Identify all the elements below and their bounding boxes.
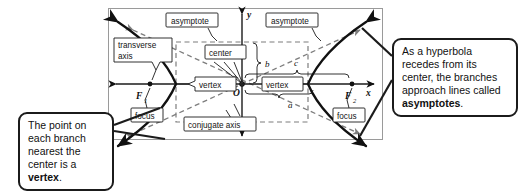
callout-left: The point on each branch nearest the cen…: [18, 112, 114, 191]
b-label: b: [265, 59, 270, 69]
callout-left-emphasis: vertex: [28, 171, 59, 183]
svg-text:F: F: [135, 91, 143, 101]
tag-asymptote-left-label: asymptote: [171, 17, 209, 26]
callout-right-text-after: .: [460, 97, 463, 109]
tag-transverse-axis-label-line2: axis: [118, 52, 133, 61]
callout-right: As a hyperbola recedes from its center, …: [392, 38, 518, 117]
tag-vertex-left-label: vertex: [199, 81, 221, 90]
callout-right-text: As a hyperbola recedes from its center, …: [402, 45, 509, 110]
tag-vertex-right: vertex: [262, 77, 309, 91]
svg-text:F: F: [344, 91, 352, 101]
tag-conjugate-axis-label: conjugate axis: [188, 121, 240, 130]
tag-vertex-right-label: vertex: [266, 81, 288, 90]
tag-center-label: center: [209, 49, 232, 58]
x-axis-label: x: [365, 88, 371, 98]
focus-1-point: [148, 82, 153, 87]
c-label: c: [294, 58, 298, 68]
callout-left-text: The point on each branch nearest the cen…: [28, 119, 105, 184]
callout-right-text-before: As a hyperbola recedes from its center, …: [402, 45, 501, 96]
a-label: a: [288, 100, 293, 110]
figure-canvas: y x O b c a F 1 F 2 asymptote: [0, 0, 525, 192]
tag-transverse-axis-label-line1: transverse: [118, 41, 157, 50]
tag-asymptote-right-label: asymptote: [271, 17, 309, 26]
callout-left-text-before: The point on each branch nearest the cen…: [28, 119, 86, 170]
y-axis-label: y: [246, 10, 252, 20]
focus-2-point: [350, 82, 355, 87]
callout-left-text-after: .: [59, 171, 62, 183]
callout-right-emphasis: asymptotes: [402, 97, 460, 109]
tag-focus-right-label: focus: [337, 112, 357, 121]
